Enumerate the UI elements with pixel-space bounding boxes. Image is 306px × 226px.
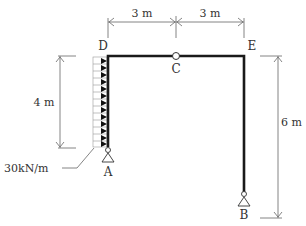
node-label-b: B bbox=[240, 208, 249, 222]
support-b bbox=[238, 192, 250, 207]
load-leader-line bbox=[62, 148, 94, 168]
node-label-e: E bbox=[248, 39, 257, 53]
dim-top-right: 3 m bbox=[200, 7, 221, 20]
top-dimension bbox=[108, 16, 244, 38]
dim-right-height: 6 m bbox=[281, 116, 302, 129]
dim-left-height: 4 m bbox=[34, 96, 55, 109]
support-a bbox=[102, 148, 114, 163]
dim-top-left: 3 m bbox=[132, 7, 153, 20]
node-label-a: A bbox=[103, 165, 113, 179]
frame-diagram: 3 m 3 m 4 m 6 m bbox=[0, 0, 306, 226]
hinge-c bbox=[173, 53, 180, 60]
distributed-load bbox=[93, 57, 107, 147]
frame-members bbox=[108, 56, 244, 192]
left-dimension bbox=[56, 56, 76, 148]
load-label: 30kN/m bbox=[4, 162, 49, 175]
right-dimension bbox=[260, 56, 282, 218]
node-label-c: C bbox=[171, 62, 180, 76]
node-label-d: D bbox=[98, 39, 108, 53]
